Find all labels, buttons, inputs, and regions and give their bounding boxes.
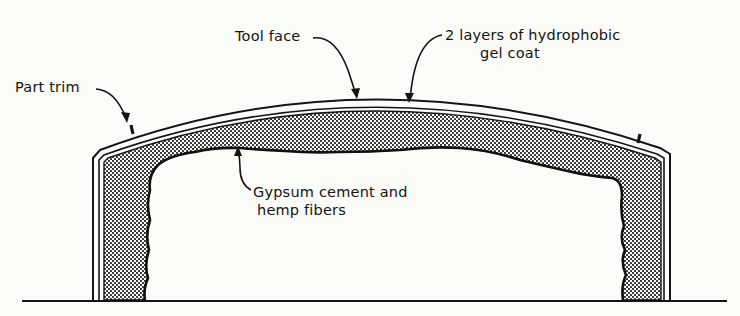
- label-tool-face: Tool face: [235, 28, 300, 45]
- part-trim-mark-left: [131, 125, 133, 134]
- label-gypsum-line1: Gypsum cement and: [253, 184, 408, 201]
- label-gel-coat-line1: 2 layers of hydrophobic: [445, 27, 621, 44]
- gel-coat-arrowhead: [405, 93, 414, 103]
- gypsum-inner-edge: [144, 147, 626, 300]
- part-trim-arrowhead: [121, 112, 130, 123]
- part-trim-leader: [96, 89, 126, 118]
- part-trim-mark-right: [638, 134, 640, 143]
- tool-cross-section-drawing: [0, 0, 740, 316]
- tool-face-leader: [313, 38, 356, 95]
- tool-face-arrowhead: [351, 88, 360, 99]
- label-gypsum-line2: hemp fibers: [257, 202, 346, 219]
- label-gel-coat-line2: gel coat: [480, 45, 540, 62]
- label-part-trim: Part trim: [15, 79, 80, 96]
- gypsum-hemp-body: [104, 111, 661, 300]
- gel-coat-leader: [410, 35, 442, 100]
- diagram-canvas: Tool face 2 layers of hydrophobic gel co…: [0, 0, 740, 316]
